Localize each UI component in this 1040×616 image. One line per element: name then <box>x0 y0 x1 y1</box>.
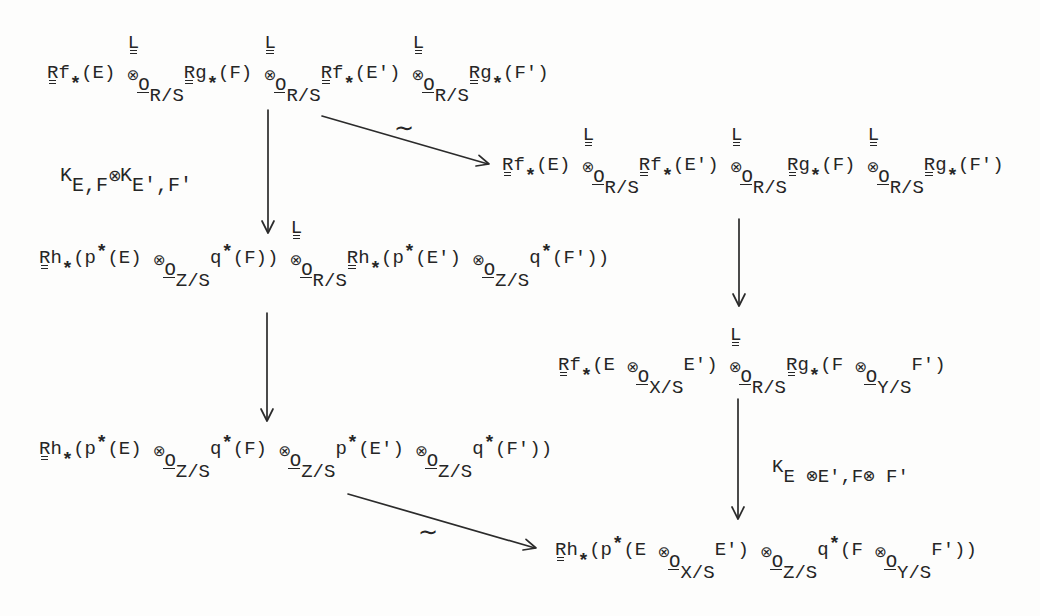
lower-star: * <box>662 167 673 186</box>
subscript: E',F' <box>132 176 192 196</box>
tensor-symbol: ⊗ <box>867 160 878 175</box>
commutative-diagram: Rf*(E) L⊗OR/SRg*(F) L⊗OR/SRf*(E') L⊗OR/S… <box>0 0 1040 616</box>
tensor-symbol: ⊗ <box>626 360 637 375</box>
text-run: h <box>50 247 61 269</box>
text-run: (p <box>73 247 96 269</box>
derived-functor-R: R <box>469 64 480 83</box>
tensor-product: ⊗OY/S <box>874 541 931 560</box>
tensor-symbol: ⊗ <box>730 160 741 175</box>
text-run: (E') <box>355 62 412 84</box>
text-run: F') <box>911 354 945 376</box>
base-subscript: R/S <box>752 379 786 398</box>
structure-sheaf-O: O <box>164 452 175 471</box>
tensor-product: ⊗OZ/S <box>153 440 210 459</box>
upper-star: * <box>347 434 358 453</box>
structure-sheaf-O: O <box>638 368 649 387</box>
derived-functor-R: R <box>787 156 798 175</box>
lower-star: * <box>492 75 503 94</box>
tensor-symbol: ⊗ <box>874 545 885 560</box>
text-run: K <box>120 164 132 187</box>
tensor-symbol: ⊗ <box>415 444 426 459</box>
derived-functor-R: R <box>321 64 332 83</box>
derived-L-marker: L <box>128 34 139 53</box>
tensor-symbol: ⊗ <box>582 160 593 175</box>
derived-functor-R: R <box>39 249 50 268</box>
lower-star: * <box>809 367 820 386</box>
lower-star: * <box>947 167 958 186</box>
tensor-product: L⊗OR/S <box>412 64 469 83</box>
upper-star: * <box>484 434 495 453</box>
text-run: (E') <box>415 247 472 269</box>
derived-functor-R: R <box>786 356 797 375</box>
text-run: h <box>566 539 577 561</box>
text-run: (F) <box>233 438 279 460</box>
derived-L-marker: L <box>413 34 424 53</box>
base-subscript: R/S <box>313 272 347 291</box>
upper-star: * <box>404 243 415 262</box>
derived-functor-R: R <box>47 64 58 83</box>
structure-sheaf-O: O <box>290 452 301 471</box>
upper-star: * <box>221 243 232 262</box>
tensor-product: L⊗OR/S <box>582 156 639 175</box>
text-run: q <box>210 438 221 460</box>
derived-L-marker: L <box>583 126 594 145</box>
diagram-node-left-3: Rh*(p*(E) ⊗OZ/Sq*(F) ⊗OZ/Sp*(E') ⊗OZ/Sq*… <box>39 440 552 459</box>
base-subscript: Z/S <box>783 564 817 583</box>
tensor-product: ⊗OZ/S <box>153 249 210 268</box>
text-run: g <box>480 62 491 84</box>
isomorphism-tilde-top: ∼ <box>394 116 414 140</box>
derived-functor-R: R <box>555 541 566 560</box>
base-subscript: R/S <box>435 87 469 106</box>
text-run: E') <box>683 354 729 376</box>
base-subscript: R/S <box>150 87 184 106</box>
tensor-product: ⊗OY/S <box>854 356 911 375</box>
derived-L-marker: L <box>868 126 879 145</box>
text-run: f <box>513 154 524 176</box>
lower-star: * <box>581 367 592 386</box>
arrow-left-3-to-bottom <box>348 494 536 550</box>
upper-star: * <box>612 535 623 554</box>
text-run: (p <box>381 247 404 269</box>
base-subscript: Y/S <box>877 379 911 398</box>
text-run: (F') <box>958 154 1004 176</box>
base-subscript: R/S <box>605 179 639 198</box>
text-run: q <box>529 247 540 269</box>
base-subscript: R/S <box>286 87 320 106</box>
structure-sheaf-O: O <box>669 553 680 572</box>
base-subscript: Z/S <box>438 463 472 482</box>
text-run: h <box>358 247 369 269</box>
structure-sheaf-O: O <box>164 261 175 280</box>
upper-star: * <box>829 535 840 554</box>
text-run: F')) <box>931 539 977 561</box>
tensor-product: L⊗OR/S <box>127 64 184 83</box>
text-run: (p <box>73 438 96 460</box>
text-run: (E <box>623 539 657 561</box>
isomorphism-tilde-bottom: ∼ <box>418 520 438 544</box>
tensor-product: L⊗OR/S <box>867 156 924 175</box>
subscript: E,F <box>72 176 108 196</box>
text-run: K <box>772 456 783 478</box>
text-run: (p <box>589 539 612 561</box>
derived-functor-R: R <box>184 64 195 83</box>
structure-sheaf-O: O <box>878 168 889 187</box>
structure-sheaf-O: O <box>593 168 604 187</box>
arrow-top-to-left-2 <box>262 110 274 233</box>
text-run: (F')) <box>552 247 609 269</box>
text-run: (E) <box>107 247 153 269</box>
lower-star: * <box>62 260 73 279</box>
structure-sheaf-O: O <box>427 452 438 471</box>
lower-star: * <box>343 75 354 94</box>
lower-star: * <box>62 451 73 470</box>
tensor-symbol: ⊗ <box>127 68 138 83</box>
base-subscript: Z/S <box>176 272 210 291</box>
derived-functor-R: R <box>639 156 650 175</box>
text-run: (E') <box>358 438 415 460</box>
structure-sheaf-O: O <box>484 261 495 280</box>
derived-L-marker: L <box>291 219 302 238</box>
text-run: f <box>332 62 343 84</box>
structure-sheaf-O: O <box>866 368 877 387</box>
tensor-product: ⊗OZ/S <box>472 249 529 268</box>
derived-functor-R: R <box>924 156 935 175</box>
text-run: q <box>472 438 483 460</box>
derived-functor-R: R <box>347 249 358 268</box>
